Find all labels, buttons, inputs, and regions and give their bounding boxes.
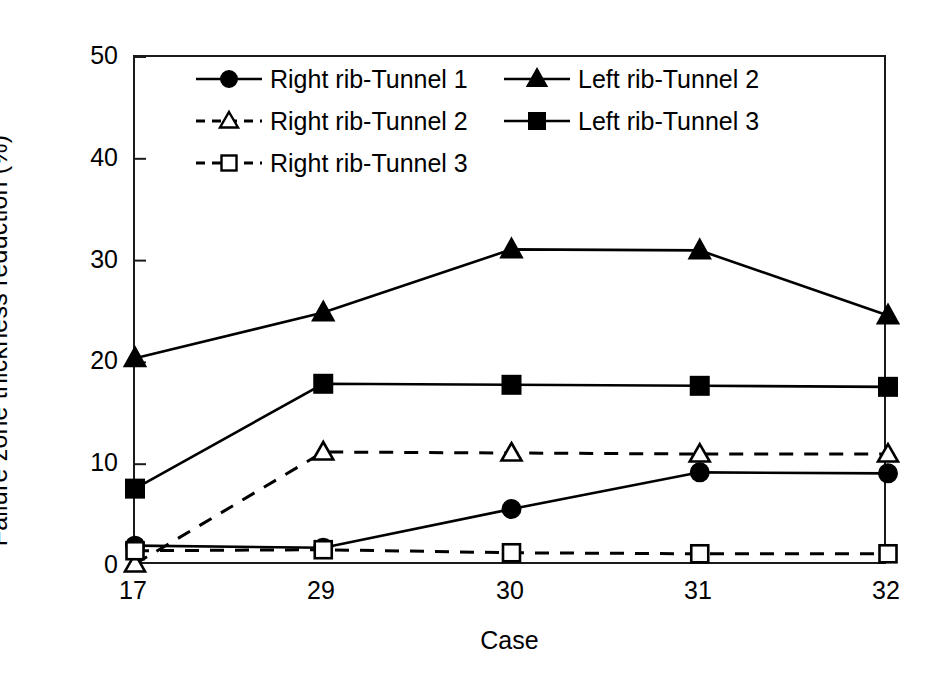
data-point-filled-circle <box>691 463 709 481</box>
series-0 <box>126 463 897 556</box>
data-point-open-square <box>691 545 708 562</box>
legend-entry[interactable]: Right rib-Tunnel 1 <box>196 62 468 96</box>
legend-label: Right rib-Tunnel 2 <box>270 109 468 134</box>
x-tick-label-29: 29 <box>281 578 361 603</box>
legend-entry[interactable]: Right rib-Tunnel 2 <box>196 104 468 138</box>
y-axis-title-text: Failure zone thickness reduction (%) <box>0 135 13 547</box>
x-tick-label-30: 30 <box>470 578 550 603</box>
data-point-filled-circle <box>879 464 897 482</box>
legend-sample-svg <box>504 65 570 93</box>
data-point-filled-square <box>503 376 521 394</box>
y-tick-label-10: 10 <box>48 450 118 475</box>
legend-marker-filled-circle <box>221 71 237 87</box>
y-tick-label-40: 40 <box>48 145 118 170</box>
data-point-filled-triangle <box>689 239 710 258</box>
legend-sample-svg <box>196 107 262 135</box>
data-point-open-square <box>880 545 897 562</box>
series-4 <box>126 375 897 498</box>
legend-sample-svg <box>196 149 262 177</box>
series-3 <box>125 238 899 366</box>
legend-marker-filled-square <box>529 113 545 129</box>
data-point-filled-square <box>314 375 332 393</box>
legend-sample <box>196 65 262 93</box>
data-point-filled-square <box>691 377 709 395</box>
series-2 <box>127 541 897 562</box>
chart-legend: Right rib-Tunnel 1Right rib-Tunnel 2Righ… <box>196 62 876 182</box>
legend-label: Left rib-Tunnel 2 <box>578 67 759 92</box>
y-axis-title: Failure zone thickness reduction (%) <box>0 0 52 681</box>
legend-marker-open-square <box>222 156 237 171</box>
legend-entry[interactable]: Left rib-Tunnel 3 <box>504 104 759 138</box>
y-tick-label-20: 20 <box>48 348 118 373</box>
legend-entry[interactable]: Right rib-Tunnel 3 <box>196 146 468 180</box>
legend-label: Left rib-Tunnel 3 <box>578 109 759 134</box>
legend-sample-svg <box>196 65 262 93</box>
chart-figure: Failure zone thickness reduction (%) 50 … <box>0 0 929 681</box>
legend-marker-filled-triangle <box>528 69 547 86</box>
data-point-filled-circle <box>503 500 521 518</box>
data-point-filled-square <box>126 480 144 498</box>
x-axis-title: Case <box>133 626 886 655</box>
data-point-open-square <box>315 541 332 558</box>
legend-label: Right rib-Tunnel 3 <box>270 151 468 176</box>
x-tick-label-32: 32 <box>846 578 926 603</box>
series-line <box>135 249 888 358</box>
data-point-open-square <box>127 542 144 559</box>
legend-sample-svg <box>504 107 570 135</box>
y-tick-label-50: 50 <box>48 43 118 68</box>
legend-entry[interactable]: Left rib-Tunnel 2 <box>504 62 759 96</box>
y-tick-marks <box>135 57 146 464</box>
legend-sample <box>504 65 570 93</box>
legend-label: Right rib-Tunnel 1 <box>270 67 468 92</box>
data-point-filled-square <box>879 378 897 396</box>
legend-sample <box>504 107 570 135</box>
y-tick-label-0: 0 <box>48 552 118 577</box>
x-tick-label-31: 31 <box>658 578 738 603</box>
legend-sample <box>196 149 262 177</box>
y-tick-label-30: 30 <box>48 247 118 272</box>
data-series-group <box>125 238 899 571</box>
legend-sample <box>196 107 262 135</box>
data-point-open-square <box>503 544 520 561</box>
x-tick-label-17: 17 <box>93 578 173 603</box>
data-point-filled-triangle <box>501 238 522 257</box>
